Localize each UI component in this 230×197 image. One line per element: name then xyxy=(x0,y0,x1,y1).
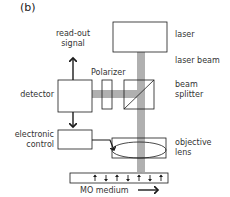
magnetic-domains xyxy=(93,175,163,182)
label-laser-beam: laser beam xyxy=(175,56,220,65)
label-detector: detector xyxy=(10,90,54,99)
reflected-beam xyxy=(92,90,142,98)
detector-box xyxy=(58,80,92,112)
label-objective: objective xyxy=(175,138,212,147)
domain-arrow-up xyxy=(159,175,163,182)
label-control: control xyxy=(8,140,54,149)
domain-arrow-down xyxy=(126,175,130,182)
mo-medium xyxy=(70,173,168,183)
label-signal: signal xyxy=(55,39,91,48)
label-read-out: read-out xyxy=(55,29,91,38)
label-beam: beam xyxy=(175,80,198,89)
label-mo-medium: MO medium xyxy=(80,186,129,195)
laser-box xyxy=(113,22,167,52)
label-lens: lens xyxy=(175,148,191,157)
label-electronic: electronic xyxy=(8,130,54,139)
label-splitter: splitter xyxy=(175,90,203,99)
domain-arrow-down xyxy=(148,175,152,182)
domain-arrow-down xyxy=(104,175,108,182)
domain-arrow-up xyxy=(93,175,97,182)
electronic-control-box xyxy=(58,130,92,149)
label-laser: laser xyxy=(175,30,195,39)
domain-arrow-up xyxy=(137,175,141,182)
laser-beam xyxy=(137,52,145,172)
label-polarizer: Polarizer xyxy=(91,68,125,77)
control-lens-arrow xyxy=(92,140,114,150)
domain-arrow-up xyxy=(115,175,119,182)
